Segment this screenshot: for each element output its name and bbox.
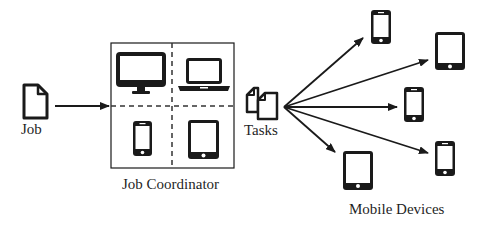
mobile-phone-3-icon <box>435 141 455 176</box>
documents-icon <box>247 88 277 119</box>
tasks-label: Tasks <box>244 122 278 139</box>
phone-icon <box>133 121 152 156</box>
job-label: Job <box>21 121 42 138</box>
document-icon <box>24 85 47 118</box>
mobile-phone-2-icon <box>404 87 424 122</box>
mobile-phone-1-icon <box>371 10 391 44</box>
tablet-icon <box>188 120 219 159</box>
mobile-tablet-2-icon <box>343 151 373 190</box>
job-coordinator-label: Job Coordinator <box>122 176 219 193</box>
mobile-tablet-1-icon <box>435 32 465 70</box>
mobile-devices-label: Mobile Devices <box>349 201 444 218</box>
